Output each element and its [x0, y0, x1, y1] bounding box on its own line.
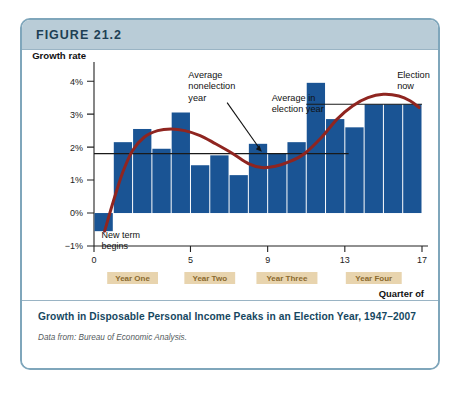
annotation-new-term-begins: New termbegins [102, 230, 141, 251]
y-tick-label: −1% [65, 241, 83, 251]
chart-bar [326, 119, 344, 213]
y-axis-title: Growth rate [32, 50, 86, 61]
figure-number-label: FIGURE 21.2 [36, 28, 122, 42]
annotation-average-nonelection-year: Averagenonelectionyear [188, 70, 235, 103]
chart-year-bands: Year OneYear TwoYear ThreeYear FourQuart… [107, 272, 425, 302]
chart-bar [230, 175, 248, 213]
figure-source-note: Data from: Bureau of Economic Analysis. [38, 333, 422, 342]
figure-header: FIGURE 21.2 [22, 20, 438, 50]
chart-bar [403, 104, 421, 213]
annotation-election-now: Electionnow [397, 70, 430, 91]
year-band-label: Year One [115, 274, 150, 283]
y-tick-label: 1% [70, 175, 83, 185]
y-tick-label: 0% [70, 208, 83, 218]
year-band-label: Year Three [266, 274, 307, 283]
annotation-arrow [227, 103, 259, 148]
y-tick-label: 4% [70, 77, 83, 87]
year-band-label: Year Two [192, 274, 227, 283]
x-tick-label: 9 [265, 255, 270, 265]
chart-bar [114, 142, 132, 213]
x-tick-label: 17 [417, 255, 427, 265]
chart-bar [191, 165, 209, 213]
chart-bar [384, 104, 402, 213]
x-tick-label: 0 [91, 255, 96, 265]
figure-caption-title: Growth in Disposable Personal Income Pea… [38, 310, 422, 324]
chart-bar [365, 104, 383, 213]
figure-card: FIGURE 21.2 −1%0%1%2%3%4%Growth rate0591… [20, 18, 440, 370]
chart-svg: −1%0%1%2%3%4%Growth rate0591317 New term… [22, 50, 438, 302]
chart-bar [210, 155, 228, 213]
figure-caption-box: Growth in Disposable Personal Income Pea… [22, 300, 438, 368]
y-tick-label: 2% [70, 143, 83, 153]
year-band-label: Year Four [355, 274, 392, 283]
chart-bar [152, 149, 170, 213]
chart-bar [133, 129, 151, 213]
chart-bar [287, 142, 305, 213]
x-tick-label: 5 [188, 255, 193, 265]
chart-bars [95, 83, 422, 231]
x-tick-label: 13 [340, 255, 350, 265]
y-tick-label: 3% [70, 110, 83, 120]
chart-bar [172, 113, 190, 214]
chart-plot-region: −1%0%1%2%3%4%Growth rate0591317 New term… [22, 50, 438, 302]
chart-bar [345, 127, 363, 213]
